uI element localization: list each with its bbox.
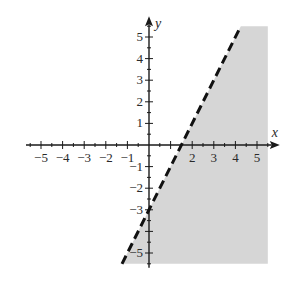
inequality-chart: −5−4−3−2−1234554321−1−2−3−5 x y: [0, 0, 284, 288]
y-tick-label: −2: [129, 180, 143, 195]
x-axis-label: x: [271, 125, 279, 140]
y-tick-label: −1: [129, 159, 143, 174]
y-axis-label: y: [153, 16, 162, 31]
y-tick-label: 4: [137, 51, 144, 66]
x-tick-label: −2: [99, 150, 113, 165]
x-tick-label: 3: [211, 150, 218, 165]
x-tick-label: −3: [77, 150, 91, 165]
x-tick-label: 5: [254, 150, 261, 165]
y-tick-label: 1: [137, 115, 144, 130]
y-tick-label: 2: [137, 94, 144, 109]
y-tick-label: −3: [129, 202, 143, 217]
y-tick-label: 5: [137, 29, 144, 44]
y-tick-label: 3: [137, 72, 144, 87]
y-tick-label: −5: [129, 245, 143, 260]
x-tick-label: 2: [189, 150, 196, 165]
x-tick-label: −4: [56, 150, 70, 165]
x-tick-label: −5: [34, 150, 48, 165]
x-tick-label: 4: [232, 150, 239, 165]
